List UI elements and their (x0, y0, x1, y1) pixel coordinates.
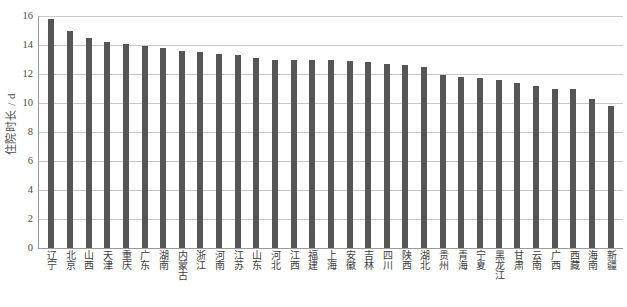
x-axis-tick-label: 青海 (456, 250, 466, 307)
x-label-slot: 山西 (78, 250, 97, 307)
x-axis-tick-label: 山东 (251, 250, 261, 307)
bar-slot (42, 16, 61, 248)
x-axis-tick-label: 天津 (101, 250, 111, 307)
x-label-slot: 四川 (377, 250, 396, 307)
x-label-slot: 海南 (582, 250, 601, 307)
x-label-slot: 上海 (321, 250, 340, 307)
x-label-slot: 天津 (97, 250, 116, 307)
x-label-slot: 江苏 (228, 250, 247, 307)
bar[interactable] (104, 42, 110, 248)
bar-slot (433, 16, 452, 248)
bar[interactable] (197, 52, 203, 248)
bar-slot (98, 16, 117, 248)
bar[interactable] (309, 60, 315, 249)
bar-slot (154, 16, 173, 248)
x-axis-tick-label: 河北 (269, 250, 279, 307)
bar[interactable] (496, 80, 502, 248)
bar[interactable] (48, 19, 54, 248)
x-label-slot: 宁夏 (470, 250, 489, 307)
x-axis-tick-label: 辽宁 (45, 250, 55, 307)
x-label-slot: 广西 (545, 250, 564, 307)
x-label-slot: 湖南 (153, 250, 172, 307)
bar-slot (527, 16, 546, 248)
bar[interactable] (477, 78, 483, 248)
x-axis-tick-label: 新疆 (605, 250, 615, 307)
x-axis-tick-label: 广西 (549, 250, 559, 307)
x-axis-tick-label: 江西 (288, 250, 298, 307)
bar[interactable] (570, 89, 576, 249)
bar-slot (228, 16, 247, 248)
bar[interactable] (328, 60, 334, 249)
x-label-slot: 江西 (284, 250, 303, 307)
x-label-slot: 湖北 (414, 250, 433, 307)
bar[interactable] (347, 61, 353, 248)
bars-layer (39, 16, 623, 248)
bar[interactable] (86, 38, 92, 248)
x-label-slot: 福建 (302, 250, 321, 307)
y-axis-tick-label: 2 (28, 214, 33, 225)
y-axis-tick-label: 8 (28, 127, 33, 138)
bar[interactable] (608, 106, 614, 248)
x-label-slot: 甘肃 (508, 250, 527, 307)
y-axis-tick-label: 12 (23, 69, 34, 80)
bar-slot (172, 16, 191, 248)
y-axis-tick-labels: 0246810121416 (18, 0, 36, 248)
bar-slot (583, 16, 602, 248)
bar[interactable] (160, 48, 166, 248)
x-axis-tick-label: 江苏 (232, 250, 242, 307)
x-label-slot: 吉林 (358, 250, 377, 307)
bar[interactable] (514, 83, 520, 248)
x-axis-tick-label: 湖南 (157, 250, 167, 307)
bar[interactable] (123, 44, 129, 248)
bar[interactable] (272, 60, 278, 249)
bar-slot (489, 16, 508, 248)
bar[interactable] (589, 99, 595, 248)
bar[interactable] (235, 55, 241, 248)
y-axis-title-text: 住院时长 / d (2, 93, 18, 155)
x-axis-tick-label: 吉林 (363, 250, 373, 307)
plot-area (38, 16, 623, 249)
bar[interactable] (365, 62, 371, 248)
y-axis-tick-label: 4 (28, 185, 33, 196)
x-label-slot: 陕西 (396, 250, 415, 307)
bar-slot (303, 16, 322, 248)
bar[interactable] (458, 77, 464, 248)
bar-chart: 住院时长 / d 0246810121416 辽宁北京山西天津重庆广东湖南内蒙古… (0, 0, 627, 307)
bar-slot (340, 16, 359, 248)
bar[interactable] (253, 58, 259, 248)
bar[interactable] (440, 75, 446, 248)
x-label-slot: 内蒙古 (172, 250, 191, 307)
bar[interactable] (552, 89, 558, 249)
bar-slot (396, 16, 415, 248)
bar[interactable] (421, 67, 427, 248)
bar[interactable] (402, 65, 408, 248)
x-label-slot: 浙江 (190, 250, 209, 307)
x-label-slot: 河南 (209, 250, 228, 307)
x-axis-tick-label: 上海 (325, 250, 335, 307)
bar[interactable] (533, 86, 539, 248)
x-label-slot: 重庆 (116, 250, 135, 307)
x-axis-tick-label: 甘肃 (512, 250, 522, 307)
x-axis-tick-label: 浙江 (195, 250, 205, 307)
bar-slot (79, 16, 98, 248)
bar-slot (415, 16, 434, 248)
bar-slot (378, 16, 397, 248)
x-axis-tick-label: 北京 (64, 250, 74, 307)
y-axis-tick-label: 10 (23, 98, 34, 109)
x-axis-tick-label: 湖北 (419, 250, 429, 307)
bar-slot (471, 16, 490, 248)
x-axis-tick-label: 云南 (531, 250, 541, 307)
bar-slot (564, 16, 583, 248)
x-axis-tick-labels: 辽宁北京山西天津重庆广东湖南内蒙古浙江河南江苏山东河北江西福建上海安徽吉林四川陕… (38, 250, 623, 307)
x-axis-tick-label: 黑龙江 (493, 250, 503, 307)
y-axis-tick-label: 16 (23, 11, 34, 22)
bar-slot (117, 16, 136, 248)
x-label-slot: 贵州 (433, 250, 452, 307)
bar[interactable] (67, 31, 73, 249)
bar[interactable] (291, 60, 297, 249)
bar[interactable] (216, 54, 222, 248)
bar[interactable] (142, 46, 148, 248)
x-label-slot: 云南 (526, 250, 545, 307)
bar[interactable] (384, 64, 390, 248)
bar[interactable] (179, 51, 185, 248)
